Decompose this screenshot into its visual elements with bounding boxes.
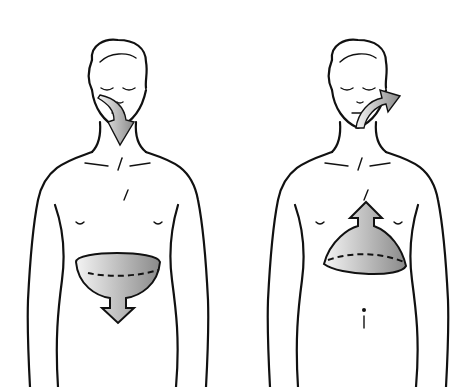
breathing-diagram [0,0,471,387]
diagram-svg [0,0,471,387]
navel [362,308,366,312]
airflow-in-arrow-icon [98,95,134,145]
diaphragm-up-dome-icon [324,202,406,274]
diaphragm-down-bowl-icon [76,253,160,323]
figure-inhale [28,40,209,387]
figure-exhale [268,40,449,387]
